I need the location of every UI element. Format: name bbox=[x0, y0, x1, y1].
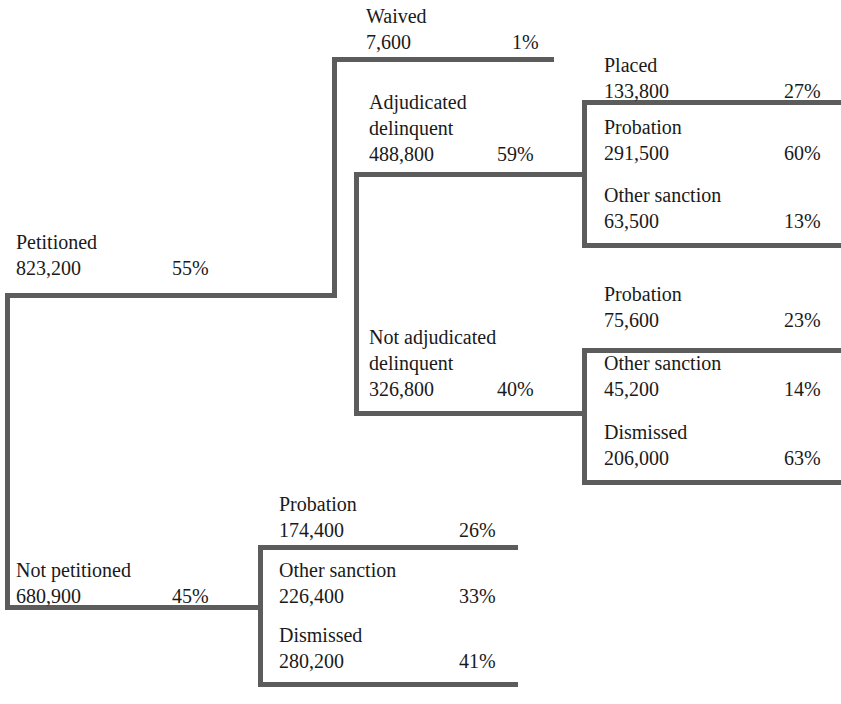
node-notpet-probation-label: Probation bbox=[279, 491, 357, 517]
connector-arm-not-adjudicated bbox=[354, 411, 586, 416]
node-notpet-dismissed-label: Dismissed bbox=[279, 622, 362, 648]
node-notadj-dismissed: Dismissed 206,000 63% bbox=[604, 419, 687, 471]
node-notadj-other-sanction-percent: 14% bbox=[784, 376, 821, 402]
connector-arm-notpet-probation bbox=[258, 545, 518, 550]
node-notpet-probation-figures: 174,400 26% bbox=[279, 517, 357, 543]
node-notpet-other-sanction: Other sanction 226,400 33% bbox=[279, 557, 396, 609]
node-adj-other-sanction-percent: 13% bbox=[784, 208, 821, 234]
node-adjudicated-delinquent-label-line2: delinquent bbox=[369, 115, 467, 141]
node-notpet-other-sanction-figures: 226,400 33% bbox=[279, 583, 396, 609]
node-not-adjudicated-delinquent-count: 326,800 bbox=[369, 376, 434, 402]
case-flow-diagram: Waived 7,600 1% Placed 133,800 27% Adjud… bbox=[0, 0, 841, 704]
node-not-petitioned-count: 680,900 bbox=[16, 583, 81, 609]
node-adj-probation-count: 291,500 bbox=[604, 140, 669, 166]
node-adj-probation-figures: 291,500 60% bbox=[604, 140, 682, 166]
node-not-petitioned: Not petitioned 680,900 45% bbox=[16, 557, 131, 609]
node-adj-placed-figures: 133,800 27% bbox=[604, 78, 669, 104]
node-adj-placed: Placed 133,800 27% bbox=[604, 52, 669, 104]
node-notadj-dismissed-figures: 206,000 63% bbox=[604, 445, 687, 471]
connector-adjudicated-outcomes-vertical bbox=[582, 100, 587, 248]
node-waived-percent: 1% bbox=[512, 29, 539, 55]
node-adj-probation-label: Probation bbox=[604, 114, 682, 140]
node-notadj-other-sanction-label: Other sanction bbox=[604, 350, 721, 376]
connector-adjudication-vertical bbox=[354, 172, 359, 416]
node-notpet-other-sanction-percent: 33% bbox=[459, 583, 496, 609]
connector-root-vertical bbox=[5, 293, 10, 610]
node-notadj-dismissed-count: 206,000 bbox=[604, 445, 669, 471]
node-notadj-probation-label: Probation bbox=[604, 281, 682, 307]
connector-arm-notpet-dismissed bbox=[258, 682, 518, 687]
node-notpet-dismissed-percent: 41% bbox=[459, 648, 496, 674]
node-waived-label: Waived bbox=[366, 3, 427, 29]
node-petitioned-figures: 823,200 55% bbox=[16, 255, 97, 281]
node-notadj-probation-count: 75,600 bbox=[604, 307, 659, 333]
node-adj-probation: Probation 291,500 60% bbox=[604, 114, 682, 166]
connector-arm-adj-other-sanction bbox=[582, 243, 841, 248]
node-adj-other-sanction-count: 63,500 bbox=[604, 208, 659, 234]
node-petitioned-label: Petitioned bbox=[16, 229, 97, 255]
node-notadj-other-sanction: Other sanction 45,200 14% bbox=[604, 350, 721, 402]
connector-not-adjudicated-outcomes-vertical bbox=[582, 348, 587, 485]
node-notpet-probation-percent: 26% bbox=[459, 517, 496, 543]
node-notadj-dismissed-percent: 63% bbox=[784, 445, 821, 471]
node-not-petitioned-percent: 45% bbox=[172, 583, 209, 609]
node-petitioned: Petitioned 823,200 55% bbox=[16, 229, 97, 281]
node-adj-placed-label: Placed bbox=[604, 52, 669, 78]
node-notadj-probation-figures: 75,600 23% bbox=[604, 307, 682, 333]
node-notadj-dismissed-label: Dismissed bbox=[604, 419, 687, 445]
node-not-adjudicated-delinquent-figures: 326,800 40% bbox=[369, 376, 496, 402]
node-not-petitioned-figures: 680,900 45% bbox=[16, 583, 131, 609]
connector-arm-notadj-dismissed bbox=[582, 480, 841, 485]
node-not-adjudicated-delinquent-percent: 40% bbox=[497, 376, 534, 402]
node-adjudicated-delinquent-percent: 59% bbox=[497, 141, 534, 167]
node-adj-placed-percent: 27% bbox=[784, 78, 821, 104]
connector-arm-adjudicated bbox=[354, 172, 586, 177]
node-not-adjudicated-delinquent: Not adjudicated delinquent 326,800 40% bbox=[369, 324, 496, 402]
connector-petitioned-arm-waived bbox=[332, 57, 554, 62]
node-adj-placed-count: 133,800 bbox=[604, 78, 669, 104]
node-waived-count: 7,600 bbox=[366, 29, 411, 55]
node-notpet-probation-count: 174,400 bbox=[279, 517, 344, 543]
node-adjudicated-delinquent-count: 488,800 bbox=[369, 141, 434, 167]
node-notpet-probation: Probation 174,400 26% bbox=[279, 491, 357, 543]
node-petitioned-count: 823,200 bbox=[16, 255, 81, 281]
node-notadj-other-sanction-figures: 45,200 14% bbox=[604, 376, 721, 402]
node-not-adjudicated-delinquent-label-line1: Not adjudicated bbox=[369, 324, 496, 350]
node-adjudicated-delinquent-figures: 488,800 59% bbox=[369, 141, 467, 167]
node-notpet-dismissed-count: 280,200 bbox=[279, 648, 344, 674]
connector-root-arm-petitioned bbox=[5, 293, 337, 298]
connector-petitioned-vertical bbox=[332, 57, 337, 298]
node-notpet-other-sanction-label: Other sanction bbox=[279, 557, 396, 583]
node-notadj-probation: Probation 75,600 23% bbox=[604, 281, 682, 333]
node-adj-other-sanction-label: Other sanction bbox=[604, 182, 721, 208]
node-notpet-dismissed: Dismissed 280,200 41% bbox=[279, 622, 362, 674]
connector-not-petitioned-outcomes-vertical bbox=[258, 545, 263, 687]
node-not-adjudicated-delinquent-label-line2: delinquent bbox=[369, 350, 496, 376]
node-notadj-other-sanction-count: 45,200 bbox=[604, 376, 659, 402]
node-notpet-other-sanction-count: 226,400 bbox=[279, 583, 344, 609]
node-waived-figures: 7,600 1% bbox=[366, 29, 427, 55]
node-adj-probation-percent: 60% bbox=[784, 140, 821, 166]
node-adj-other-sanction-figures: 63,500 13% bbox=[604, 208, 721, 234]
node-notadj-probation-percent: 23% bbox=[784, 307, 821, 333]
node-adj-other-sanction: Other sanction 63,500 13% bbox=[604, 182, 721, 234]
node-waived: Waived 7,600 1% bbox=[366, 3, 427, 55]
node-notpet-dismissed-figures: 280,200 41% bbox=[279, 648, 362, 674]
node-not-petitioned-label: Not petitioned bbox=[16, 557, 131, 583]
node-adjudicated-delinquent: Adjudicated delinquent 488,800 59% bbox=[369, 89, 467, 167]
node-petitioned-percent: 55% bbox=[172, 255, 209, 281]
node-adjudicated-delinquent-label-line1: Adjudicated bbox=[369, 89, 467, 115]
